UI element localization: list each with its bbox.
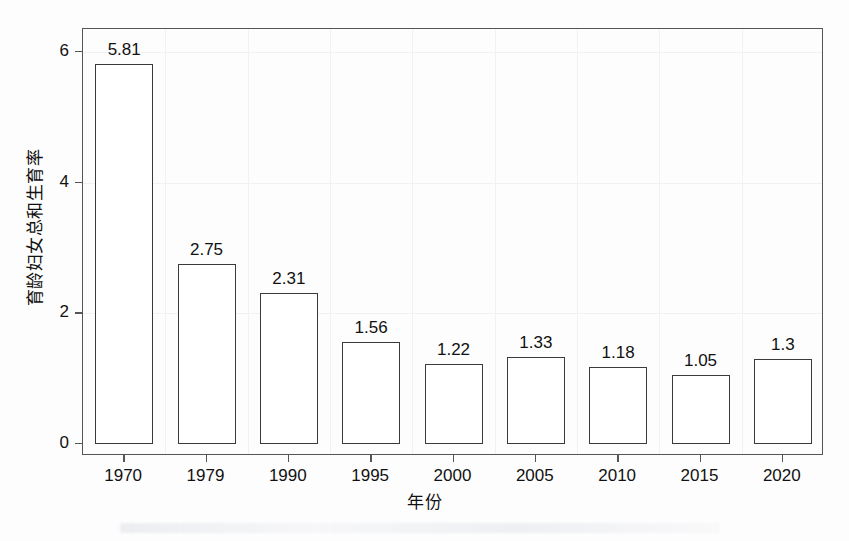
y-tick-mark [75,182,82,183]
y-tick-mark [75,312,82,313]
x-tick-mark [535,455,536,462]
x-tick-mark [370,455,371,462]
bar-value-label-2000: 1.22 [409,340,499,360]
bar-1995 [342,342,400,444]
x-tick-mark [288,455,289,462]
bar-2015 [672,375,730,444]
x-tick-label-2010: 2010 [582,467,652,484]
bar-value-label-2005: 1.33 [491,333,581,353]
x-tick-label-2005: 2005 [500,467,570,484]
x-tick-label-1995: 1995 [335,467,405,484]
bar-2010 [589,367,647,444]
x-tick-label-2020: 2020 [747,467,817,484]
y-tick-label: 6 [35,42,69,59]
x-tick-label-1970: 1970 [88,467,158,484]
x-tick-mark [453,455,454,462]
bar-value-label-1995: 1.56 [326,318,416,338]
y-tick-label: 4 [35,173,69,190]
y-axis-title: 育龄妇女总和生育率 [18,0,48,455]
x-tick-mark [123,455,124,462]
x-tick-label-1990: 1990 [253,467,323,484]
bar-value-label-2010: 1.18 [573,343,663,363]
x-tick-mark [617,455,618,462]
x-tick-mark [206,455,207,462]
y-tick-label: 2 [35,303,69,320]
bar-series: 5.812.752.311.561.221.331.181.051.3 [83,29,822,454]
bar-2000 [425,364,483,444]
bar-1970 [95,64,153,444]
x-tick-label-1979: 1979 [171,467,241,484]
scan-artifact [120,523,720,533]
x-tick-label-2000: 2000 [418,467,488,484]
x-axis-title: 年份 [0,488,849,513]
x-tick-mark [782,455,783,462]
chart-figure: 育龄妇女总和生育率 2460 5.812.752.311.561.221.331… [0,0,849,541]
bar-value-label-1979: 2.75 [162,240,252,260]
bar-1979 [178,264,236,444]
bar-value-label-2015: 1.05 [656,351,746,371]
bar-value-label-1990: 2.31 [244,269,334,289]
y-tick-mark [75,443,82,444]
plot-area: 5.812.752.311.561.221.331.181.051.3 [82,28,823,455]
y-tick-label: 0 [35,434,69,451]
bar-value-label-2020: 1.3 [738,335,828,355]
bar-2005 [507,357,565,444]
bar-1990 [260,293,318,444]
bar-value-label-1970: 5.81 [79,40,169,60]
x-tick-mark [700,455,701,462]
x-tick-label-2015: 2015 [665,467,735,484]
bar-2020 [754,359,812,444]
